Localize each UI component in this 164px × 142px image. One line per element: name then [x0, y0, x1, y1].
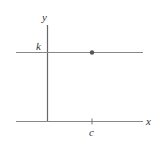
k-label: k — [36, 40, 42, 52]
coordinate-plane: y x k c — [0, 0, 164, 142]
y-axis-label: y — [41, 11, 47, 23]
x-axis-label: x — [145, 115, 151, 127]
c-label: c — [89, 126, 94, 138]
point-c-k — [90, 50, 94, 54]
